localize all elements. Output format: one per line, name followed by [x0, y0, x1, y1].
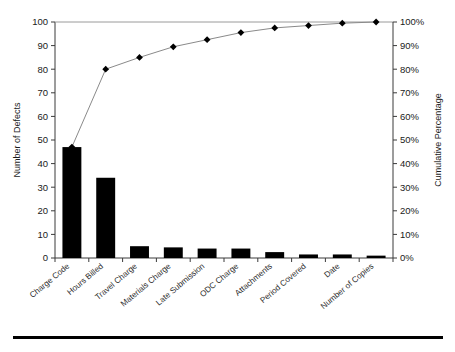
y-axis-right-tick-label: 40% [400, 158, 420, 169]
y-axis-left-tick-label: 30 [37, 182, 48, 193]
bar-9[interactable] [367, 256, 386, 258]
y-axis-left-tick-label: 10 [37, 229, 48, 240]
x-axis-category-label-0: Charge Code [28, 261, 71, 299]
cumulative-line [72, 22, 376, 147]
y-axis-left-tick-label: 0 [43, 252, 48, 263]
cumulative-marker-7[interactable] [305, 22, 312, 29]
bottom-divider-rule [13, 336, 443, 339]
y-axis-right-tick-label: 50% [400, 134, 420, 145]
bar-1[interactable] [96, 178, 115, 258]
y-axis-right-tick-label: 90% [400, 40, 420, 51]
bar-3[interactable] [164, 247, 183, 258]
y-axis-left-title: Number of Defects [12, 102, 22, 178]
cumulative-marker-1[interactable] [102, 66, 109, 73]
y-axis-left-tick-label: 20 [37, 205, 48, 216]
pareto-chart: 01020304050607080901000%10%20%30%40%50%6… [0, 0, 455, 352]
cumulative-marker-3[interactable] [170, 43, 177, 50]
y-axis-left-tick-label: 90 [37, 40, 48, 51]
x-axis-category-label-8: Date [323, 261, 342, 279]
y-axis-right-title: Cumulative Percentage [433, 93, 443, 187]
y-axis-right-tick-label: 0% [400, 252, 414, 263]
cumulative-marker-2[interactable] [136, 54, 143, 61]
bar-7[interactable] [299, 254, 318, 258]
y-axis-left-tick-label: 50 [37, 134, 48, 145]
cumulative-marker-6[interactable] [271, 25, 278, 32]
cumulative-marker-9[interactable] [373, 19, 380, 26]
y-axis-right-tick-label: 60% [400, 111, 420, 122]
bar-0[interactable] [62, 147, 81, 258]
bar-5[interactable] [231, 249, 250, 258]
chart-canvas: 01020304050607080901000%10%20%30%40%50%6… [0, 0, 455, 352]
y-axis-right-tick-label: 20% [400, 205, 420, 216]
y-axis-right-tick-label: 70% [400, 87, 420, 98]
bar-2[interactable] [130, 246, 149, 258]
y-axis-right-tick-label: 10% [400, 229, 420, 240]
y-axis-left-tick-label: 60 [37, 111, 48, 122]
cumulative-marker-8[interactable] [339, 20, 346, 27]
y-axis-right-tick-label: 30% [400, 182, 420, 193]
y-axis-left-tick-label: 70 [37, 87, 48, 98]
y-axis-left-tick-label: 100 [32, 16, 48, 27]
y-axis-right-tick-label: 80% [400, 64, 420, 75]
cumulative-marker-4[interactable] [204, 36, 211, 43]
y-axis-left-tick-label: 80 [37, 64, 48, 75]
bar-6[interactable] [265, 252, 284, 258]
bar-4[interactable] [198, 249, 217, 258]
y-axis-right-tick-label: 100% [400, 16, 425, 27]
bar-8[interactable] [333, 254, 352, 258]
y-axis-left-tick-label: 40 [37, 158, 48, 169]
cumulative-marker-5[interactable] [238, 29, 245, 36]
